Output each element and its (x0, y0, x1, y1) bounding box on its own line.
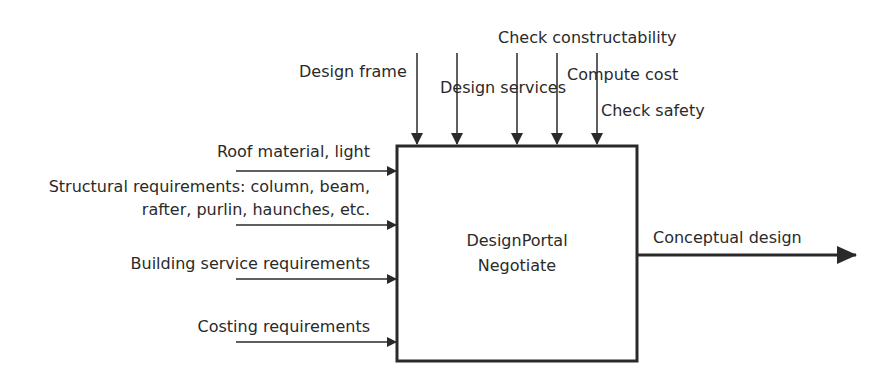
activity-subtitle: Negotiate (397, 256, 637, 276)
input-label-building-service: Building service requirements (131, 254, 370, 274)
output-label: Conceptual design (653, 228, 802, 248)
activity-title: DesignPortal (397, 231, 637, 251)
input-label-costing: Costing requirements (198, 317, 370, 337)
control-label-check-constructability: Check constructability (498, 28, 676, 48)
control-label-check-safety: Check safety (601, 101, 705, 121)
input-label-structural-line2: rafter, purlin, haunches, etc. (142, 200, 370, 220)
activity-box (397, 146, 637, 361)
input-label-structural-line1: Structural requirements: column, beam, (49, 177, 370, 197)
control-label-design-frame: Design frame (299, 62, 407, 82)
control-label-design-services: Design services (440, 78, 566, 98)
control-label-compute-cost: Compute cost (567, 65, 678, 85)
input-label-roof: Roof material, light (217, 142, 370, 162)
